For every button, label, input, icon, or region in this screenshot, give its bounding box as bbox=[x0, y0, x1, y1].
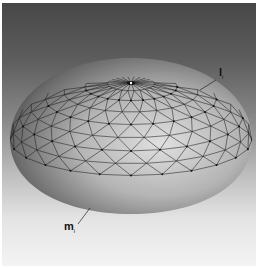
dome-diagram bbox=[0, 0, 258, 268]
label-l-i: li bbox=[219, 66, 223, 80]
leader-line-m bbox=[78, 208, 90, 224]
apex-node bbox=[127, 81, 135, 85]
label-m-i: mi bbox=[64, 220, 75, 234]
